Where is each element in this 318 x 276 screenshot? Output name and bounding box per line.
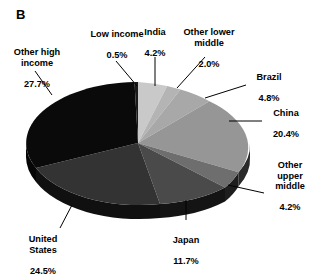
slice-label-other-high-income-value: 27.7% bbox=[24, 79, 50, 89]
leader-line-low-income bbox=[116, 61, 137, 86]
slice-label-india-name: India bbox=[144, 27, 165, 37]
slice-label-united-states: UnitedStates 24.5% bbox=[18, 224, 68, 276]
slice-label-other-upper-middle-value: 4.2% bbox=[280, 202, 301, 212]
slice-label-japan: Japan 11.7% bbox=[162, 225, 210, 267]
slice-label-low-income-value: 0.5% bbox=[107, 50, 128, 60]
slice-label-china-name: China bbox=[273, 108, 299, 118]
slice-label-china-value: 20.4% bbox=[273, 129, 299, 139]
slice-label-other-upper-middle: Otheruppermiddle 4.2% bbox=[266, 150, 314, 212]
slice-label-japan-name: Japan bbox=[173, 235, 200, 245]
slice-label-india-value: 4.2% bbox=[145, 48, 166, 58]
leader-line-brazil bbox=[205, 85, 246, 98]
slice-label-other-high-income: Other highincome 27.7% bbox=[6, 37, 68, 89]
slice-label-india: India 4.2% bbox=[133, 17, 177, 59]
slice-label-united-states-name: UnitedStates bbox=[29, 234, 58, 254]
slice-label-other-lower-middle: Other lowermiddle 2.0% bbox=[180, 17, 238, 69]
slice-label-other-high-income-name: Other highincome bbox=[14, 47, 60, 67]
slice-label-other-upper-middle-name: Otheruppermiddle bbox=[275, 160, 305, 191]
slice-label-china: China 20.4% bbox=[262, 98, 310, 140]
pie-top-face bbox=[26, 82, 248, 205]
slice-label-brazil-name: Brazil bbox=[256, 72, 281, 82]
slice-label-other-lower-middle-name: Other lowermiddle bbox=[183, 27, 234, 47]
slice-label-japan-value: 11.7% bbox=[173, 256, 199, 266]
slice-label-united-states-value: 24.5% bbox=[30, 266, 56, 276]
slice-label-other-lower-middle-value: 2.0% bbox=[199, 59, 220, 69]
